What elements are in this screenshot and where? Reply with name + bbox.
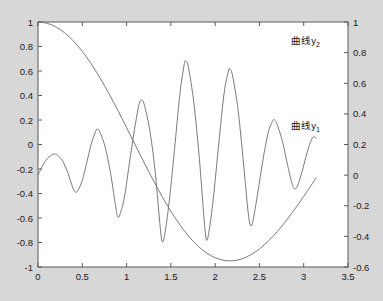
right-y-tick-label: 0.4 [353, 108, 366, 119]
left-y-tick-label: -0.2 [17, 164, 33, 175]
right-y-tick-label: 1 [353, 17, 358, 28]
x-tick-label: 1 [124, 271, 129, 282]
left-y-tick-label: 1 [28, 17, 33, 28]
x-tick-label: 0 [35, 271, 40, 282]
x-tick-label: 2.5 [253, 271, 266, 282]
left-y-tick-label: -0.4 [17, 188, 33, 199]
right-y-tick-label: -0.2 [353, 200, 369, 211]
left-y-tick-label: 0.2 [20, 115, 33, 126]
x-tick-label: 3.5 [341, 271, 354, 282]
x-tick-label: 1.5 [164, 271, 177, 282]
x-tick-label: 3 [301, 271, 306, 282]
right-y-tick-label: 0.2 [353, 139, 366, 150]
x-tick-label: 2 [212, 271, 217, 282]
chart-svg: 00.511.522.533.5-1-0.8-0.6-0.4-0.200.20.… [0, 0, 383, 301]
right-y-tick-label: -0.6 [353, 262, 369, 273]
right-y-tick-label: -0.4 [353, 231, 369, 242]
figure-canvas: 00.511.522.533.5-1-0.8-0.6-0.4-0.200.20.… [0, 0, 383, 301]
left-y-tick-label: 0.4 [20, 90, 33, 101]
plot-area-background [38, 22, 348, 267]
left-y-tick-label: -0.6 [17, 213, 33, 224]
right-y-tick-label: 0 [353, 170, 358, 181]
left-y-tick-label: 0.8 [20, 41, 33, 52]
x-tick-label: 0.5 [76, 271, 89, 282]
left-y-tick-label: 0.6 [20, 66, 33, 77]
right-y-tick-label: 0.8 [353, 47, 366, 58]
left-y-tick-label: -1 [25, 262, 33, 273]
right-y-tick-label: 0.6 [353, 78, 366, 89]
left-y-tick-label: 0 [28, 139, 33, 150]
left-y-tick-label: -0.8 [17, 237, 33, 248]
